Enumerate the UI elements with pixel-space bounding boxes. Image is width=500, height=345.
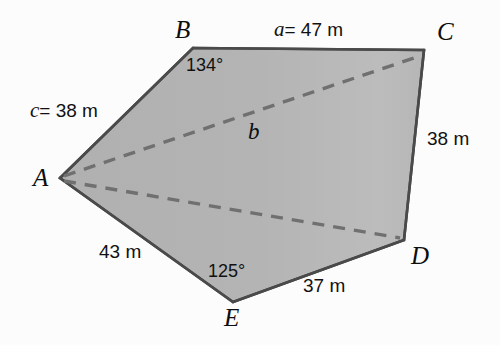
side-label-c-value: = 38 m: [39, 100, 98, 121]
diagonal-label-b: b: [248, 120, 260, 143]
side-label-a-variable: a: [274, 17, 285, 41]
angle-label-E: 125°: [208, 262, 245, 280]
vertex-label-E: E: [224, 305, 239, 330]
angle-label-B: 134°: [186, 56, 223, 74]
side-label-ea: 43 m: [99, 242, 141, 261]
side-label-c: c= 38 m: [30, 100, 98, 121]
side-label-cd: 38 m: [427, 129, 469, 148]
diagram-canvas: A B C D E c= 38 m a= 47 m 38 m 37 m 43 m…: [0, 0, 500, 345]
vertex-label-D: D: [411, 243, 429, 268]
side-label-a-value: = 47 m: [285, 19, 344, 40]
side-label-c-variable: c: [30, 98, 39, 122]
vertex-label-B: B: [175, 17, 190, 42]
side-label-a: a= 47 m: [274, 19, 343, 40]
vertex-label-A: A: [33, 165, 48, 190]
side-label-de: 37 m: [303, 276, 345, 295]
vertex-label-C: C: [437, 19, 454, 44]
pentagon-figure: [0, 0, 500, 345]
